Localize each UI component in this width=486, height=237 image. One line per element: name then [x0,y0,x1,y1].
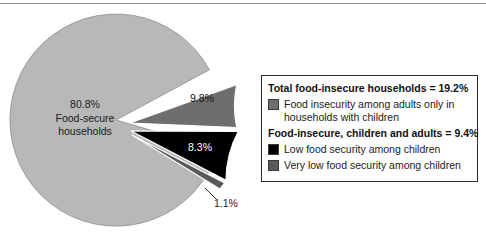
food-secure-line2: Food-secure [26,112,144,126]
legend-swatch-very-low-food-security [268,160,279,171]
legend-item-very-low-food-security: Very low food security among children [268,159,471,172]
legend-label-low-food-security: Low food security among children [284,143,440,156]
food-secure-percent: 80.8% [26,98,144,112]
slice-value-very-low-food-security: 1.1% [214,197,238,209]
legend-swatch-low-food-security [268,144,279,155]
slice-value-low-food-security: 8.3% [188,141,212,153]
legend-label-adults-only: Food insecurity among adults only in hou… [284,98,471,123]
chart-legend: Total food-insecure households = 19.2% F… [261,75,478,182]
pie-center-label: 80.8% Food-secure households [26,98,144,139]
legend-heading-total: Total food-insecure households = 19.2% [268,82,471,95]
legend-label-very-low-food-security: Very low food security among children [284,159,461,172]
pie-chart-figure: 9.8% 8.3% 80.8% Food-secure households 1… [0,0,486,237]
legend-heading-children-adults: Food-insecure, children and adults = 9.4… [268,127,471,140]
food-secure-line3: households [26,125,144,139]
legend-swatch-adults-only [268,99,279,110]
legend-item-adults-only: Food insecurity among adults only in hou… [268,98,471,123]
slice-value-adults-only: 9.8% [190,92,214,104]
legend-item-low-food-security: Low food security among children [268,143,471,156]
